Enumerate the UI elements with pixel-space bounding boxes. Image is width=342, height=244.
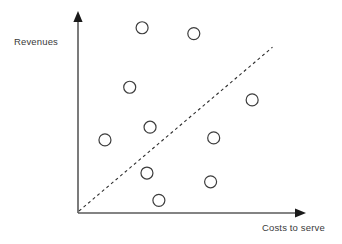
scatter-chart: Revenues Costs to serve	[0, 0, 342, 244]
data-point	[99, 134, 111, 146]
x-axis-label: Costs to serve	[262, 222, 325, 234]
data-point	[188, 28, 200, 40]
data-point	[246, 94, 258, 106]
y-axis-label: Revenues	[14, 36, 58, 48]
x-axis-arrow-icon	[295, 208, 306, 217]
data-point	[141, 167, 153, 179]
data-point	[124, 81, 136, 93]
data-point	[205, 176, 217, 188]
data-point	[136, 22, 148, 34]
data-point	[144, 121, 156, 133]
y-axis-arrow-icon	[73, 11, 82, 22]
reference-line-dashed	[79, 47, 272, 211]
data-point	[208, 132, 220, 144]
data-point	[153, 194, 165, 206]
